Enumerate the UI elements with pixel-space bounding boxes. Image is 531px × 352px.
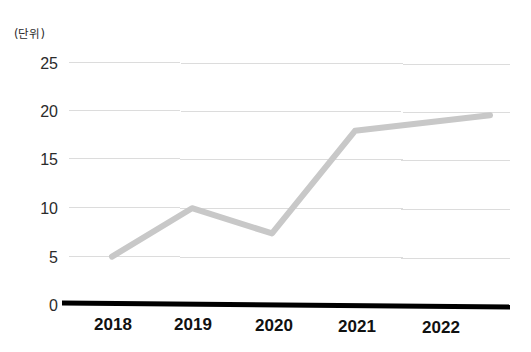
x-tick-label-2022: 2022 (422, 318, 460, 337)
gridline-20 (69, 111, 510, 113)
x-axis-line (62, 303, 510, 307)
data-series-line (112, 115, 490, 256)
y-axis-labels: 25 20 15 10 5 0 (40, 55, 58, 314)
line-chart: (단위) 25 20 15 10 5 0 2018 2019 2020 2021 (0, 0, 531, 352)
gridlines (69, 63, 510, 259)
y-tick-label-20: 20 (40, 103, 58, 120)
y-tick-label-25: 25 (40, 55, 58, 72)
chart-canvas: (단위) 25 20 15 10 5 0 2018 2019 2020 2021 (0, 0, 531, 352)
x-axis-labels: 2018 2019 2020 2021 2022 (94, 315, 460, 337)
unit-annotation: (단위) (14, 27, 45, 41)
y-tick-label-10: 10 (40, 200, 58, 217)
y-tick-label-5: 5 (49, 249, 58, 266)
x-tick-label-2020: 2020 (255, 316, 293, 335)
x-tick-label-2021: 2021 (338, 317, 376, 336)
x-tick-label-2018: 2018 (94, 315, 132, 334)
gridline-5 (69, 257, 510, 259)
gridline-25 (69, 63, 510, 65)
y-tick-label-15: 15 (40, 151, 58, 168)
y-tick-label-0: 0 (49, 297, 58, 314)
gridline-15 (69, 159, 510, 161)
x-tick-label-2019: 2019 (174, 315, 212, 334)
